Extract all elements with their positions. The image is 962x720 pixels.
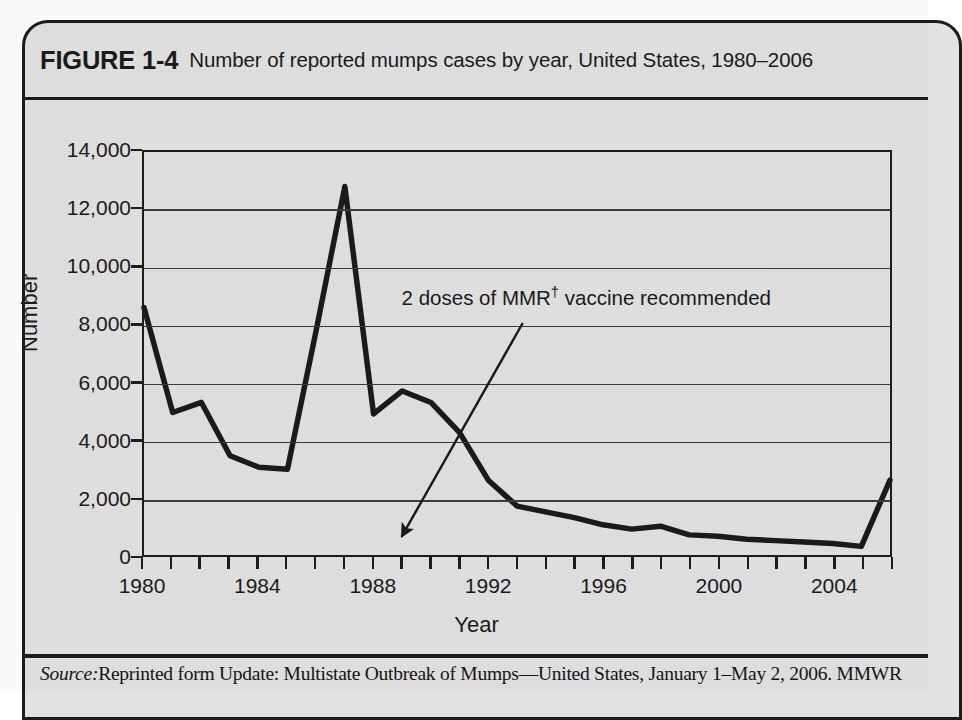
figure-header: FIGURE 1-4 Number of reported mumps case… [25,23,928,97]
x-axis-tick [660,557,663,569]
x-axis-tick [804,557,807,569]
x-axis-tick [170,557,173,569]
x-axis-tick [227,557,230,569]
x-axis-tick [602,557,605,569]
x-axis-tick [400,557,403,569]
source-divider [22,654,928,658]
x-axis-title: Year [25,612,928,638]
x-axis-tick [314,557,317,569]
x-axis-tick [429,557,432,569]
x-axis-tick [747,557,750,569]
x-axis-tick [343,557,346,569]
x-axis-tick [487,557,490,569]
y-axis-tick [131,149,142,152]
y-axis-tick [131,265,142,268]
x-axis-tick [256,557,259,569]
source-prefix: Source: [40,663,98,684]
x-axis-tick [891,557,894,569]
source-text: Reprinted form Update: Multistate Outbre… [98,663,902,684]
dagger-footnote-marker: † [551,284,559,300]
x-axis-tick [545,557,548,569]
annotation-label: 2 doses of MMR† vaccine recommended [402,284,771,310]
x-axis-tick-label: 1992 [465,574,512,598]
source-note: Source:Reprinted form Update: Multistate… [40,663,930,685]
y-axis-tick [131,323,142,326]
figure-number: FIGURE 1-4 [40,46,178,75]
x-axis-tick [631,557,634,569]
annotation-arrow [25,100,928,654]
x-axis-tick [862,557,865,569]
figure-caption: Number of reported mumps cases by year, … [189,48,813,72]
x-axis-tick-label: 2000 [696,574,743,598]
x-axis-tick [833,557,836,569]
y-axis-tick [131,207,142,210]
x-axis-tick-label: 1984 [234,574,281,598]
x-axis-tick [689,557,692,569]
x-axis-tick-label: 1980 [119,574,166,598]
y-axis-tick [131,381,142,384]
x-axis-tick [775,557,778,569]
chart-area: 14,00012,00010,0008,0006,0004,0002,0000 … [25,100,928,654]
x-axis-tick [573,557,576,569]
x-axis-tick-label: 1988 [349,574,396,598]
x-axis-tick-label: 1996 [580,574,627,598]
y-axis-tick [131,498,142,501]
x-axis-tick [372,557,375,569]
x-axis-tick [516,557,519,569]
x-axis-tick [141,557,144,569]
x-axis-tick [198,557,201,569]
x-axis-tick-label: 2004 [811,574,858,598]
x-axis-tick [458,557,461,569]
x-axis-tick [285,557,288,569]
y-axis-tick [131,439,142,442]
x-axis-tick [718,557,721,569]
